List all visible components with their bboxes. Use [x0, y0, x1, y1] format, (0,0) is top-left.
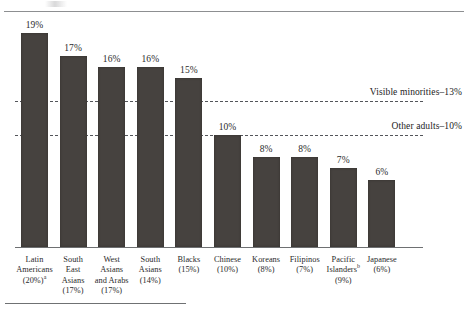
bar-value-label: 6%	[358, 167, 405, 177]
bar	[21, 33, 48, 247]
bar-value-label: 8%	[281, 144, 328, 154]
chart-page: Visible minorities–13%Other adults–10%19…	[0, 0, 468, 316]
bar-value-label: 17%	[50, 43, 97, 53]
reference-line-label-2: Other adults–10%	[392, 121, 462, 131]
footnote-superscript: a	[44, 274, 47, 280]
x-axis-category-label: Japanese(6%)	[357, 255, 407, 276]
bar-value-label: 15%	[165, 65, 212, 75]
bar	[253, 157, 280, 247]
bar	[175, 78, 202, 247]
bar-chart-plot-area: Visible minorities–13%Other adults–10%19…	[0, 0, 468, 316]
bar	[330, 168, 357, 247]
bar	[98, 67, 125, 247]
bar	[60, 56, 87, 247]
bar	[214, 135, 241, 248]
bar	[368, 180, 395, 248]
bar	[137, 67, 164, 247]
bar-value-label: 19%	[11, 20, 58, 30]
reference-line-label-1: Visible minorities–13%	[370, 87, 462, 97]
bar-value-label: 10%	[204, 122, 251, 132]
footnote-separator-rule	[5, 303, 186, 304]
x-axis-baseline	[15, 247, 423, 248]
bar-value-label: 16%	[127, 54, 174, 64]
bar	[291, 157, 318, 247]
bar-value-label: 7%	[320, 155, 367, 165]
